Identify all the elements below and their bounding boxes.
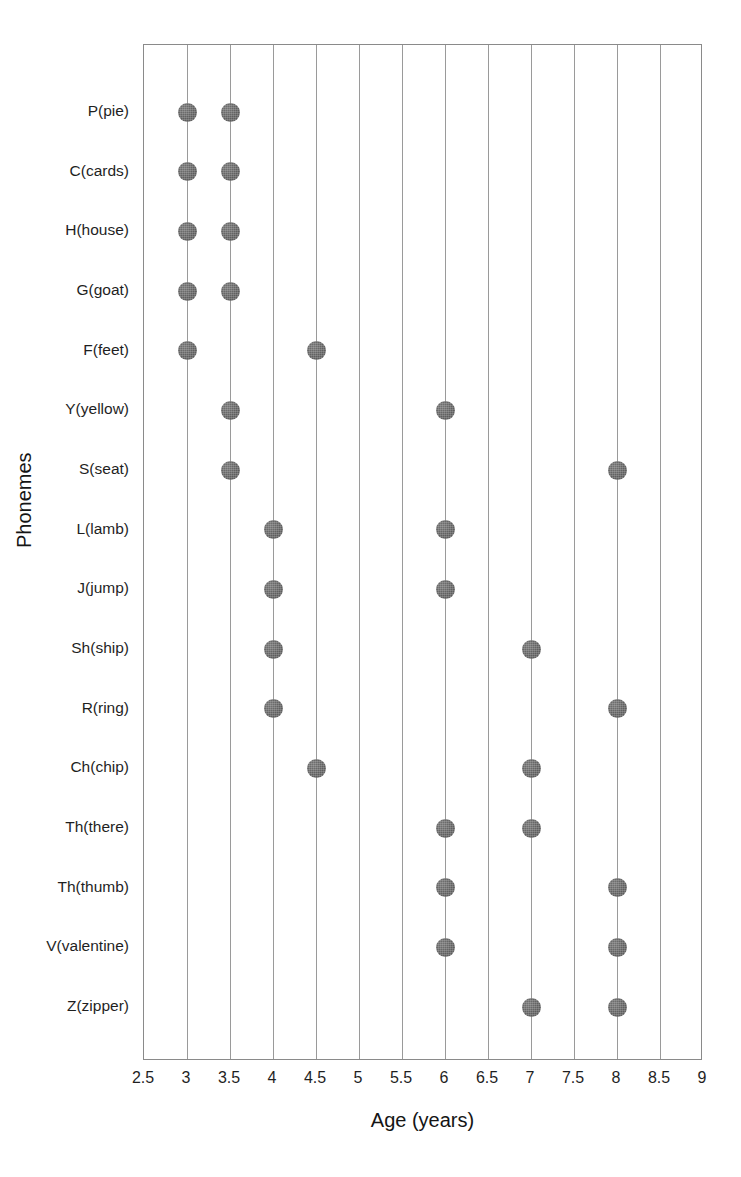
gridline-3.5 bbox=[230, 45, 231, 1059]
data-point bbox=[264, 699, 283, 718]
y-tick-label: Z(zipper) bbox=[0, 998, 129, 1014]
data-point bbox=[264, 640, 283, 659]
y-tick-label: H(house) bbox=[0, 223, 129, 239]
data-point bbox=[264, 580, 283, 599]
data-point bbox=[608, 878, 627, 897]
y-axis-title: Phonemes bbox=[14, 508, 34, 548]
gridline-4 bbox=[273, 45, 274, 1059]
x-tick-label: 2.5 bbox=[132, 1070, 154, 1086]
x-tick-label: 4.5 bbox=[304, 1070, 326, 1086]
x-tick-label: 6.5 bbox=[476, 1070, 498, 1086]
gridline-7.5 bbox=[574, 45, 575, 1059]
x-tick-label: 7 bbox=[526, 1070, 535, 1086]
gridline-6 bbox=[445, 45, 446, 1059]
x-tick-label: 9 bbox=[698, 1070, 707, 1086]
data-point bbox=[307, 341, 326, 360]
y-tick-label: P(pie) bbox=[0, 103, 129, 119]
y-tick-label: G(goat) bbox=[0, 282, 129, 298]
data-point bbox=[178, 282, 197, 301]
data-point bbox=[522, 640, 541, 659]
plot-area bbox=[143, 44, 702, 1060]
x-tick-label: 3 bbox=[182, 1070, 191, 1086]
gridline-5.5 bbox=[402, 45, 403, 1059]
data-point bbox=[522, 998, 541, 1017]
y-tick-label: R(ring) bbox=[0, 700, 129, 716]
gridline-8.5 bbox=[660, 45, 661, 1059]
y-tick-label: Th(thumb) bbox=[0, 879, 129, 895]
gridline-3 bbox=[187, 45, 188, 1059]
data-point bbox=[221, 461, 240, 480]
data-point bbox=[436, 580, 455, 599]
data-point bbox=[221, 282, 240, 301]
phoneme-acquisition-chart: P(pie)C(cards)H(house)G(goat)F(feet)Y(ye… bbox=[0, 0, 741, 1177]
x-tick-label: 7.5 bbox=[562, 1070, 584, 1086]
y-tick-label: V(valentine) bbox=[0, 939, 129, 955]
gridline-7 bbox=[531, 45, 532, 1059]
x-tick-label: 5.5 bbox=[390, 1070, 412, 1086]
data-point bbox=[221, 162, 240, 181]
data-point bbox=[608, 699, 627, 718]
gridline-4.5 bbox=[316, 45, 317, 1059]
x-axis-title: Age (years) bbox=[143, 1110, 702, 1130]
y-tick-label: C(cards) bbox=[0, 163, 129, 179]
data-point bbox=[522, 759, 541, 778]
data-point bbox=[608, 938, 627, 957]
data-point bbox=[436, 938, 455, 957]
gridline-6.5 bbox=[488, 45, 489, 1059]
y-tick-label: Y(yellow) bbox=[0, 402, 129, 418]
x-tick-label: 4 bbox=[268, 1070, 277, 1086]
y-tick-label: F(feet) bbox=[0, 342, 129, 358]
data-point bbox=[178, 341, 197, 360]
x-tick-label: 8.5 bbox=[648, 1070, 670, 1086]
data-point bbox=[436, 819, 455, 838]
y-tick-label: J(jump) bbox=[0, 581, 129, 597]
x-tick-label: 6 bbox=[440, 1070, 449, 1086]
data-point bbox=[178, 222, 197, 241]
data-point bbox=[178, 162, 197, 181]
data-point bbox=[307, 759, 326, 778]
data-point bbox=[522, 819, 541, 838]
data-point bbox=[436, 401, 455, 420]
gridline-5 bbox=[359, 45, 360, 1059]
x-tick-label: 8 bbox=[612, 1070, 621, 1086]
x-tick-label: 5 bbox=[354, 1070, 363, 1086]
x-tick-label: 3.5 bbox=[218, 1070, 240, 1086]
data-point bbox=[178, 103, 197, 122]
y-tick-label: Sh(ship) bbox=[0, 640, 129, 656]
data-point bbox=[608, 461, 627, 480]
data-point bbox=[264, 520, 283, 539]
y-tick-label: Ch(chip) bbox=[0, 760, 129, 776]
data-point bbox=[436, 878, 455, 897]
data-point bbox=[608, 998, 627, 1017]
gridline-8 bbox=[617, 45, 618, 1059]
data-point bbox=[221, 222, 240, 241]
y-tick-label: Th(there) bbox=[0, 819, 129, 835]
data-point bbox=[221, 103, 240, 122]
data-point bbox=[436, 520, 455, 539]
data-point bbox=[221, 401, 240, 420]
